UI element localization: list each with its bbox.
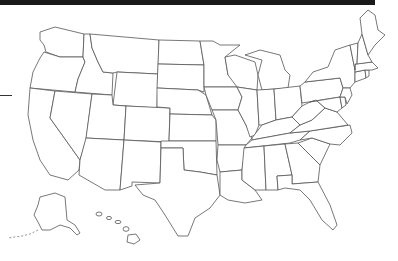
state-colorado[interactable]: [124, 106, 170, 142]
state-alaska[interactable]: [34, 193, 80, 235]
aleutian-islands: [8, 230, 38, 238]
state-rhode-island[interactable]: [365, 70, 369, 78]
hawaii-maui[interactable]: [123, 227, 129, 232]
hawaii-oahu[interactable]: [107, 216, 112, 219]
state-new-mexico[interactable]: [120, 140, 161, 190]
hawaii-big-island[interactable]: [127, 234, 140, 244]
hawaii-molokai[interactable]: [115, 220, 121, 223]
state-wyoming[interactable]: [113, 72, 158, 108]
state-florida[interactable]: [277, 175, 337, 230]
state-south-dakota[interactable]: [157, 64, 204, 92]
state-arkansas[interactable]: [217, 145, 246, 172]
hawaii-kauai[interactable]: [96, 212, 102, 216]
us-states-map: [0, 0, 398, 261]
state-indiana[interactable]: [257, 89, 276, 125]
state-kansas[interactable]: [169, 114, 216, 141]
state-north-dakota[interactable]: [158, 40, 204, 65]
state-arizona[interactable]: [79, 138, 124, 190]
